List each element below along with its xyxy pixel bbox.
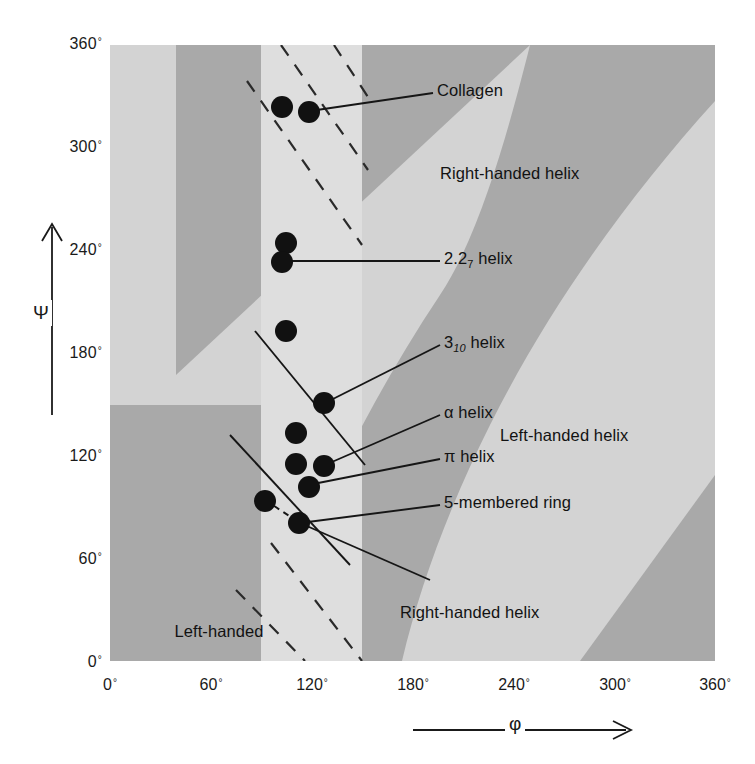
y-axis-label: Ψ bbox=[30, 300, 52, 326]
callout-collagen: Collagen bbox=[437, 81, 503, 100]
point-collagen-1[interactable] bbox=[271, 96, 293, 118]
region-label-right-handed-lower: Right-handed helix bbox=[400, 602, 539, 623]
leader-310-diagonal bbox=[255, 331, 365, 465]
point-alpha-3[interactable] bbox=[313, 455, 335, 477]
point-310-1[interactable] bbox=[275, 320, 297, 342]
data-point-group bbox=[254, 96, 335, 534]
leader-alpha bbox=[325, 415, 440, 465]
callout-227-prefix: 2.2 bbox=[444, 249, 467, 267]
region-label-right-handed-upper: Right-handed helix bbox=[440, 163, 579, 184]
point-five-ring-2[interactable] bbox=[288, 512, 310, 534]
point-collagen-2[interactable] bbox=[298, 101, 320, 123]
leader-310 bbox=[325, 345, 440, 403]
data-points-and-leaders bbox=[110, 45, 715, 661]
leader-five-ring-a bbox=[300, 505, 440, 523]
x-tick-360: 360° bbox=[699, 676, 731, 694]
callout-227-suffix: helix bbox=[473, 249, 512, 267]
callout-310-prefix: 3 bbox=[444, 333, 453, 351]
point-alpha-1[interactable] bbox=[285, 422, 307, 444]
y-tick-120: 120° bbox=[70, 447, 103, 465]
callout-227-helix: 2.27 helix bbox=[444, 249, 513, 270]
x-axis-label: φ bbox=[505, 713, 525, 735]
callout-310-subscript: 10 bbox=[453, 342, 465, 354]
x-tick-0: 0° bbox=[103, 676, 117, 694]
point-227-2[interactable] bbox=[271, 251, 293, 273]
plot-area: Right-handed helix Left-handed helix Lef… bbox=[110, 45, 715, 661]
leader-alpha-diagonal bbox=[230, 435, 350, 565]
point-five-ring-1[interactable] bbox=[254, 490, 276, 512]
x-axis: 0° 60° 120° 180° 240° 300° 360° bbox=[110, 676, 715, 706]
y-tick-0: 0° bbox=[88, 653, 102, 671]
x-tick-180: 180° bbox=[397, 676, 429, 694]
point-227-1[interactable] bbox=[275, 232, 297, 254]
region-label-left-handed-lower-line1: Left-handed bbox=[174, 622, 263, 640]
callout-310-suffix: helix bbox=[466, 333, 505, 351]
leader-five-ring-b bbox=[300, 523, 430, 580]
x-tick-120: 120° bbox=[296, 676, 328, 694]
y-tick-300: 300° bbox=[70, 138, 103, 156]
x-tick-240: 240° bbox=[498, 676, 530, 694]
callout-310-helix: 310 helix bbox=[444, 333, 505, 354]
callout-pi-helix: π helix bbox=[444, 447, 495, 466]
y-tick-360: 360° bbox=[70, 35, 103, 53]
ramachandran-plot-figure: 360° 300° 240° 180° 120° 60° 0° Ψ 0° 60°… bbox=[0, 0, 755, 764]
x-tick-300: 300° bbox=[599, 676, 631, 694]
region-label-left-handed-lower: Left-handed helix bbox=[130, 600, 280, 661]
leader-collagen bbox=[310, 93, 433, 111]
region-label-left-handed-middle: Left-handed helix bbox=[500, 425, 628, 446]
point-alpha-2[interactable] bbox=[285, 453, 307, 475]
point-310-2[interactable] bbox=[313, 392, 335, 414]
x-tick-60: 60° bbox=[200, 676, 223, 694]
callout-five-membered-ring: 5-membered ring bbox=[444, 493, 571, 512]
point-pi-1[interactable] bbox=[298, 476, 320, 498]
callout-alpha-helix: α helix bbox=[444, 403, 493, 422]
y-tick-60: 60° bbox=[79, 550, 102, 568]
